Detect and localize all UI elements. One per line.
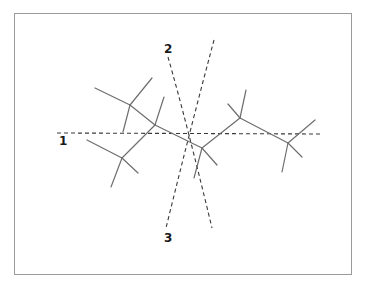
axis-label-3: 3: [164, 231, 172, 245]
bond-line: [194, 148, 202, 178]
axis-label-1: 1: [59, 134, 67, 148]
axis-labels: 1 2 3: [59, 42, 172, 245]
bond-line: [122, 125, 155, 158]
molecule-diagram: 1 2 3: [0, 0, 368, 288]
bond-line: [95, 88, 130, 105]
bond-line: [155, 97, 164, 125]
bond-line: [122, 158, 138, 173]
bond-line: [288, 120, 315, 143]
molecule-bonds: [87, 78, 315, 187]
bond-line: [202, 118, 240, 148]
bond-line: [202, 148, 217, 165]
bond-line: [155, 125, 202, 148]
bond-line: [87, 140, 122, 158]
bond-line: [282, 143, 288, 172]
symmetry-axes: [57, 40, 323, 228]
bond-line: [228, 104, 240, 118]
bond-line: [111, 158, 122, 187]
symmetry-axis-1: [57, 133, 323, 134]
bond-line: [130, 78, 152, 105]
bond-line: [240, 118, 288, 143]
bond-line: [288, 143, 302, 157]
bond-line: [130, 105, 155, 125]
axis-label-2: 2: [164, 42, 172, 56]
bond-line: [240, 90, 246, 118]
bond-line: [123, 105, 130, 132]
